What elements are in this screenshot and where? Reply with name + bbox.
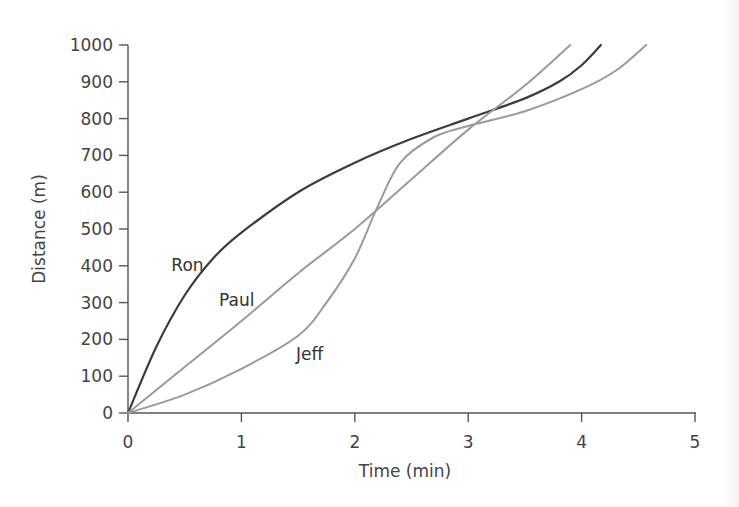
y-tick-label: 900 bbox=[81, 72, 113, 92]
series-line-paul bbox=[128, 45, 570, 413]
y-tick-label: 0 bbox=[102, 403, 113, 423]
x-axis-title: Time (min) bbox=[358, 461, 451, 481]
x-tick-label: 2 bbox=[349, 432, 360, 452]
series-line-ron bbox=[128, 45, 601, 413]
distance-time-chart: 01002003004005006007008009001000 012345 … bbox=[0, 0, 739, 507]
x-tick-label: 4 bbox=[576, 432, 587, 452]
y-tick-label: 500 bbox=[81, 219, 113, 239]
y-tick-label: 700 bbox=[81, 145, 113, 165]
x-tick-label: 3 bbox=[463, 432, 474, 452]
series-lines bbox=[128, 45, 646, 413]
x-tick-label: 0 bbox=[123, 432, 134, 452]
y-axis-title: Distance (m) bbox=[29, 174, 49, 284]
x-tick-label: 1 bbox=[236, 432, 247, 452]
series-label-paul: Paul bbox=[219, 290, 254, 310]
x-tick-label: 5 bbox=[690, 432, 701, 452]
y-tick-label: 200 bbox=[81, 329, 113, 349]
series-label-jeff: Jeff bbox=[295, 344, 324, 364]
y-ticks: 01002003004005006007008009001000 bbox=[70, 35, 128, 423]
page-edge-shadow bbox=[725, 0, 739, 507]
axes bbox=[127, 45, 696, 414]
series-line-jeff bbox=[128, 45, 646, 413]
y-tick-label: 1000 bbox=[70, 35, 113, 55]
y-tick-label: 400 bbox=[81, 256, 113, 276]
y-tick-label: 100 bbox=[81, 366, 113, 386]
y-tick-label: 600 bbox=[81, 182, 113, 202]
y-tick-label: 800 bbox=[81, 109, 113, 129]
series-labels: RonPaulJeff bbox=[171, 255, 324, 363]
series-label-ron: Ron bbox=[171, 255, 203, 275]
x-ticks: 012345 bbox=[123, 413, 701, 452]
y-tick-label: 300 bbox=[81, 293, 113, 313]
